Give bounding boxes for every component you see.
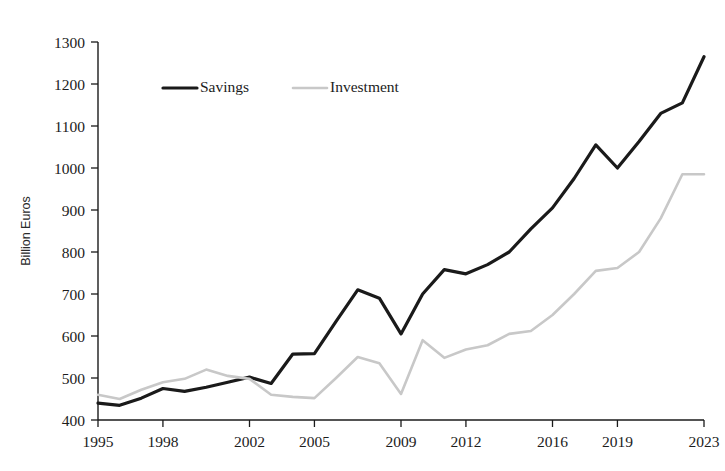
x-tick-label: 2016 xyxy=(537,433,568,450)
y-tick-label: 1200 xyxy=(54,76,85,93)
x-tick-label: 2009 xyxy=(386,433,417,450)
y-tick-label: 800 xyxy=(62,244,86,261)
legend-label-investment: Investment xyxy=(330,78,400,95)
y-tick-label: 1000 xyxy=(54,160,85,177)
y-tick-label: 900 xyxy=(62,202,86,219)
series-line-investment xyxy=(98,174,704,399)
y-tick-label: 1300 xyxy=(54,34,85,51)
y-tick-label: 600 xyxy=(62,328,86,345)
x-tick-label: 2023 xyxy=(689,433,720,450)
y-tick-label: 1100 xyxy=(55,118,86,135)
y-tick-label: 400 xyxy=(62,412,86,429)
line-chart: 4005006007008009001000110012001300 19951… xyxy=(0,0,725,471)
legend-label-savings: Savings xyxy=(200,78,249,95)
x-tick-label: 2019 xyxy=(602,433,633,450)
chart-legend: SavingsInvestment xyxy=(163,78,400,95)
y-tick-label: 500 xyxy=(62,370,86,387)
y-tick-label: 700 xyxy=(62,286,86,303)
chart-container: 4005006007008009001000110012001300 19951… xyxy=(0,0,725,471)
x-tick-label: 2012 xyxy=(450,433,481,450)
x-tick-label: 1995 xyxy=(83,433,114,450)
y-axis-ticks: 4005006007008009001000110012001300 xyxy=(54,34,98,429)
x-tick-label: 2002 xyxy=(234,433,265,450)
x-tick-label: 2005 xyxy=(299,433,330,450)
x-tick-label: 1998 xyxy=(147,433,178,450)
y-axis-title: Billion Euros xyxy=(19,196,33,265)
data-series-group xyxy=(98,57,704,406)
x-axis-ticks: 199519982002200520092012201620192023 xyxy=(83,420,720,450)
series-line-savings xyxy=(98,57,704,406)
